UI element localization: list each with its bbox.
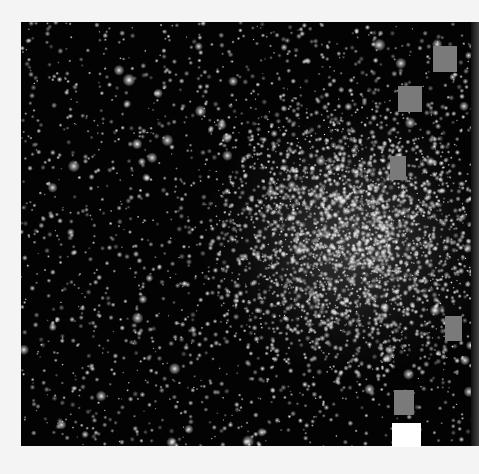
occluder-patch-white [392, 423, 421, 447]
occluder-patch [445, 316, 462, 341]
occluder-patch [433, 46, 457, 72]
occluder-patch [398, 86, 422, 112]
occluder-patch [390, 156, 406, 180]
occluder-patch [394, 390, 414, 415]
photo-right-edge [471, 22, 479, 446]
